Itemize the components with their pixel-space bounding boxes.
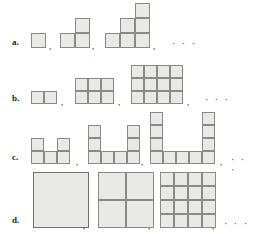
grid-cell: [160, 200, 174, 214]
grid-cell: [88, 138, 101, 151]
figure-a-3: [105, 3, 150, 48]
separator-comma: ,: [92, 42, 94, 51]
grid-cell: [174, 186, 188, 200]
separator-comma: ,: [49, 42, 51, 51]
grid-cell: [202, 200, 216, 214]
grid-cell: [189, 151, 202, 164]
grid-cell: [174, 214, 188, 228]
grid-cell: [202, 112, 215, 125]
sequence-row-c: c.,,,· · ·: [0, 114, 254, 170]
separator-comma: ,: [187, 98, 189, 107]
sequence-row-d: d.,,,· · ·: [0, 172, 254, 234]
grid-cell: [170, 78, 183, 91]
square-outline: [33, 172, 89, 228]
grid-cell: [75, 78, 88, 91]
grid-cell: [160, 214, 174, 228]
grid-cell: [105, 33, 120, 48]
grid-cell: [88, 91, 101, 104]
sequence-diagram: a.,,,· · ·b.,,,· · ·c.,,,· · ·d.,,,· · ·: [0, 0, 254, 234]
figure-c-3: [150, 112, 215, 164]
grid-cell: [150, 138, 163, 151]
figure-b-2: [75, 78, 114, 104]
grid-cell: [101, 151, 114, 164]
grid-cell: [144, 78, 157, 91]
grid-cell: [188, 214, 202, 228]
grid-cell: [135, 18, 150, 33]
grid-cell: [88, 125, 101, 138]
grid-cell: [31, 33, 46, 48]
ellipsis: · · ·: [172, 39, 197, 49]
grid-cell: [75, 18, 90, 33]
grid-cell: [127, 151, 140, 164]
grid-cell: [60, 33, 75, 48]
grid-cell: [144, 91, 157, 104]
separator-comma: ,: [61, 98, 63, 107]
grid-cell: [160, 186, 174, 200]
grid-cell: [127, 125, 140, 138]
grid-cell: [157, 91, 170, 104]
figure-d-3: [160, 172, 216, 228]
grid-cell: [157, 78, 170, 91]
sequence-row-a: a.,,,· · ·: [0, 4, 254, 54]
grid-cell: [120, 33, 135, 48]
separator-comma: ,: [83, 222, 85, 231]
grid-cell: [202, 125, 215, 138]
grid-cell: [135, 3, 150, 18]
grid-cell: [163, 151, 176, 164]
sequence-row-b: b.,,,· · ·: [0, 62, 254, 110]
grid-cell: [75, 33, 90, 48]
grid-cell: [135, 33, 150, 48]
grid-cell: [101, 78, 114, 91]
figure-c-2: [88, 125, 140, 164]
figure-a-1: [31, 33, 46, 48]
grid-cell: [75, 91, 88, 104]
grid-cell: [131, 65, 144, 78]
grid-cell: [150, 151, 163, 164]
grid-cell: [31, 138, 44, 151]
grid-cell: [202, 138, 215, 151]
figure-d-2: [98, 172, 154, 228]
grid-cell: [157, 65, 170, 78]
ellipsis: · · ·: [224, 219, 249, 229]
grid-cell: [57, 151, 70, 164]
grid-cell: [31, 151, 44, 164]
grid-cell: [188, 200, 202, 214]
separator-comma: ,: [153, 42, 155, 51]
grid-cell: [98, 172, 126, 200]
row-label-d: d.: [12, 216, 19, 225]
grid-cell: [202, 186, 216, 200]
grid-cell: [31, 91, 44, 104]
grid-cell: [150, 112, 163, 125]
grid-cell: [101, 91, 114, 104]
grid-cell: [114, 151, 127, 164]
figure-d-1: [33, 172, 89, 228]
grid-cell: [126, 172, 154, 200]
figure-c-1: [31, 138, 70, 164]
grid-cell: [188, 186, 202, 200]
grid-cell: [170, 91, 183, 104]
grid-cell: [202, 151, 215, 164]
grid-cell: [98, 200, 126, 228]
separator-comma: ,: [118, 98, 120, 107]
separator-comma: ,: [220, 158, 222, 167]
grid-cell: [88, 78, 101, 91]
grid-cell: [188, 172, 202, 186]
grid-cell: [131, 78, 144, 91]
grid-cell: [150, 125, 163, 138]
row-label-a: a.: [12, 38, 19, 47]
row-label-c: c.: [12, 153, 18, 162]
grid-cell: [176, 151, 189, 164]
row-label-b: b.: [12, 94, 19, 103]
ellipsis: · · ·: [205, 95, 230, 105]
figure-b-1: [31, 91, 57, 104]
figure-b-3: [131, 65, 183, 104]
grid-cell: [88, 151, 101, 164]
grid-cell: [202, 172, 216, 186]
separator-comma: ,: [141, 158, 143, 167]
separator-comma: ,: [148, 222, 150, 231]
separator-comma: ,: [76, 158, 78, 167]
separator-comma: ,: [212, 222, 214, 231]
grid-cell: [120, 18, 135, 33]
grid-cell: [170, 65, 183, 78]
figure-a-2: [60, 18, 90, 48]
